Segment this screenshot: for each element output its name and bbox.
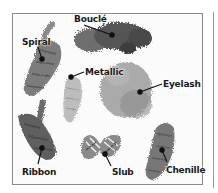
slub-yarn: [81, 135, 121, 159]
label-boucle: Bouclé: [74, 14, 107, 24]
ribbon-yarn: [18, 100, 56, 160]
label-spiral: Spiral: [22, 37, 50, 47]
label-eyelash: Eyelash: [163, 79, 201, 89]
label-metallic: Metallic: [85, 67, 123, 77]
boucle-yarn: [74, 22, 152, 54]
label-chenille: Chenille: [166, 165, 205, 175]
label-slub: Slub: [112, 167, 134, 177]
metallic-yarn: [63, 77, 82, 122]
label-ribbon: Ribbon: [22, 167, 56, 177]
